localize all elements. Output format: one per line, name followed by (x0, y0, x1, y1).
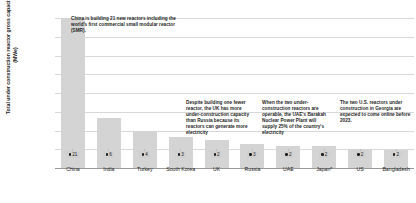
category-uk[interactable]: 2UK (199, 158, 235, 172)
reactor-dot-icon (69, 153, 71, 155)
category-label: Japan* (316, 166, 332, 172)
reactor-count-badge: 3 (247, 151, 258, 158)
reactor-count-value: 2 (361, 151, 364, 158)
category-label: US (357, 166, 364, 172)
bar-slot (55, 18, 91, 168)
reactor-count-badge: 2 (211, 151, 222, 158)
bar-slot (306, 18, 342, 168)
reactor-count-value: 21 (72, 151, 77, 158)
bar-slot (163, 18, 199, 168)
bar-slot (342, 18, 378, 168)
bar-chart: Total under construction reactor gross c… (0, 0, 416, 203)
reactor-count-value: 2 (325, 151, 328, 158)
category-bangladesh[interactable]: 2Bangladesh (378, 158, 414, 172)
category-china[interactable]: 21China (55, 158, 91, 172)
category-axis: 21China6India4Turkey3South Korea2UK3Russ… (55, 158, 414, 172)
category-label: Russia (245, 166, 261, 172)
annotation-us: The two U.S. reactors under construction… (340, 100, 412, 124)
reactor-dot-icon (249, 153, 251, 155)
reactor-count-badge: 2 (319, 151, 330, 158)
reactor-count-value: 2 (397, 151, 400, 158)
reactor-dot-icon (393, 153, 395, 155)
bar-slot (235, 18, 271, 168)
reactor-count-value: 3 (181, 151, 184, 158)
reactor-count-value: 4 (145, 151, 148, 158)
reactor-count-badge: 21 (66, 151, 80, 158)
bar-slot (91, 18, 127, 168)
reactor-count-badge: 2 (391, 151, 402, 158)
reactor-count-badge: 3 (175, 151, 186, 158)
annotation-uae: When the two under-construction reactors… (262, 100, 332, 137)
category-uae[interactable]: 2UAE (270, 158, 306, 172)
category-label: Turkey (137, 166, 153, 172)
reactor-dot-icon (106, 153, 108, 155)
category-label: India (103, 166, 114, 172)
category-south-korea[interactable]: 3South Korea (163, 158, 199, 172)
category-label: Bangladesh (382, 166, 409, 172)
reactor-count-badge: 6 (103, 151, 114, 158)
reactor-dot-icon (214, 153, 216, 155)
reactor-dot-icon (285, 153, 287, 155)
category-us[interactable]: 2US (342, 158, 378, 172)
annotation-uk: Despite building one fewer reactor, the … (186, 100, 254, 137)
category-russia[interactable]: 3Russia (235, 158, 271, 172)
category-turkey[interactable]: 4Turkey (127, 158, 163, 172)
reactor-dot-icon (321, 153, 323, 155)
category-label: China (66, 166, 80, 172)
reactor-count-value: 2 (217, 151, 220, 158)
category-label: UK (213, 166, 220, 172)
bar[interactable] (61, 18, 85, 168)
reactor-dot-icon (142, 153, 144, 155)
reactor-count-value: 2 (289, 151, 292, 158)
category-india[interactable]: 6India (91, 158, 127, 172)
reactor-count-value: 6 (109, 151, 112, 158)
bar-slot (270, 18, 306, 168)
category-label: South Korea (166, 166, 195, 172)
reactor-count-badge: 4 (139, 151, 150, 158)
reactor-count-value: 3 (253, 151, 256, 158)
bar-slot (199, 18, 235, 168)
category-label: UAE (283, 166, 294, 172)
bar-slot (378, 18, 414, 168)
reactor-dot-icon (178, 153, 180, 155)
y-axis-title: Total under construction reactor gross c… (5, 0, 19, 120)
reactor-dot-icon (357, 153, 359, 155)
reactor-count-badge: 2 (283, 151, 294, 158)
bar-series (55, 18, 414, 168)
annotation-china: China is building 21 new reactors includ… (71, 16, 183, 34)
bar-slot (127, 18, 163, 168)
category-japan[interactable]: 2Japan* (306, 158, 342, 172)
reactor-count-badge: 2 (355, 151, 366, 158)
